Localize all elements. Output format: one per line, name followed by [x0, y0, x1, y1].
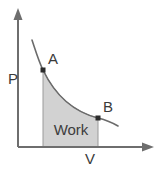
x-axis-label-volume: V [85, 150, 95, 167]
point-b-marker [96, 116, 101, 121]
point-a-label: A [48, 50, 58, 67]
pv-diagram-figure: A B Work P V [0, 0, 159, 172]
y-axis-arrow-icon [14, 8, 23, 20]
y-axis-label-pressure: P [8, 70, 18, 87]
work-area-label: Work [54, 121, 89, 138]
point-b-label: B [103, 98, 113, 115]
x-axis-arrow-icon [142, 143, 154, 152]
point-a-marker [41, 68, 46, 73]
pv-diagram-svg: A B Work P V [0, 0, 159, 172]
